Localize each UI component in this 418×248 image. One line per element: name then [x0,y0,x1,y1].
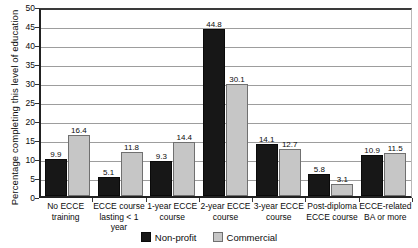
bar-group: 9.314.4 [150,10,195,196]
x-axis-label-line: ECCE-related [359,201,412,212]
bar-commercial: 11.5 [384,153,406,196]
legend-swatch-nonprofit [141,232,151,242]
x-axis-tick-mark [146,198,147,202]
y-axis-tick-mark [35,198,39,199]
bar-nonprofit: 9.9 [45,159,67,196]
bar-group: 9.916.4 [45,10,90,196]
x-axis-tick-mark [252,198,253,202]
legend-label: Non-profit [155,232,197,243]
y-axis-ticks: 05101520253035404550 [0,0,39,206]
x-axis-label: Post-diplomaECCE course [305,201,358,222]
bar-nonprofit: 5.1 [98,177,120,196]
y-axis-tick-label: 15 [26,137,35,146]
bars-layer: 9.916.45.111.89.314.444.830.114.112.75.8… [41,10,410,196]
x-axis-labels: No ECCEtrainingECCE courselasting < 1 ye… [39,201,412,225]
x-axis-label: 2-year ECCEcourse [199,201,252,222]
x-axis-label-line: BA or more [359,212,412,223]
bar-commercial: 11.8 [121,152,143,196]
x-axis-label-line: course [146,212,199,223]
bar-group: 5.83.1 [308,10,353,196]
bar-chart: Percentage completing this level of educ… [0,0,418,248]
bar-nonprofit: 10.9 [361,155,383,196]
bar-value-label: 10.9 [364,146,380,155]
bar-value-label: 11.8 [124,143,139,152]
x-axis-label-line: No ECCE [39,201,92,212]
bar-nonprofit: 5.8 [308,174,330,196]
x-axis-label-line: training [39,212,92,223]
legend-swatch-commercial [213,232,223,242]
y-axis-tick-label: 30 [26,80,35,89]
bar-value-label: 12.7 [282,140,298,149]
bar-value-label: 5.1 [103,168,114,177]
y-axis-tick-label: 45 [26,23,35,32]
x-axis-label-line: ECCE course [92,201,145,212]
x-axis-label: 1-year ECCEcourse [146,201,199,222]
x-axis-label-line: ECCE course [305,212,358,223]
bar-nonprofit: 44.8 [203,29,225,196]
x-axis-label-line: 3-year ECCE [252,201,305,212]
bar-value-label: 14.4 [176,133,192,142]
x-axis-tick-mark [359,198,360,202]
bar-value-label: 11.5 [388,144,403,153]
x-axis-tick-mark [92,198,93,202]
x-axis-label-line: course [252,212,305,223]
bar-commercial: 30.1 [226,84,248,196]
y-axis-tick-label: 40 [26,42,35,51]
legend-item[interactable]: Non-profit [141,232,197,243]
y-axis-tick-label: 25 [26,99,35,108]
y-axis-tick-label: 35 [26,61,35,70]
bar-value-label: 9.3 [156,152,167,161]
x-axis-tick-mark [412,198,413,202]
x-axis-label-line: 2-year ECCE [199,201,252,212]
bar-group: 44.830.1 [203,10,248,196]
bar-commercial: 14.4 [173,142,195,196]
bar-value-label: 44.8 [206,20,222,29]
y-axis-tick-label: 20 [26,118,35,127]
bar-commercial: 16.4 [68,135,90,196]
y-axis-tick-label: 10 [26,156,35,165]
bar-nonprofit: 9.3 [150,161,172,196]
bar-value-label: 5.8 [314,165,325,174]
bar-value-label: 16.4 [71,126,87,135]
x-axis-label-line: Post-diploma [305,201,358,212]
x-axis-label-line: 1-year ECCE [146,201,199,212]
bar-commercial: 3.1 [331,184,353,196]
x-axis-label-line: course [199,212,252,223]
x-axis-tick-mark [199,198,200,202]
bar-value-label: 30.1 [229,75,245,84]
bar-commercial: 12.7 [279,149,301,196]
bar-nonprofit: 14.1 [256,144,278,196]
bar-value-label: 14.1 [259,135,275,144]
bar-group: 14.112.7 [256,10,301,196]
bar-group: 10.911.5 [361,10,406,196]
legend-item[interactable]: Commercial [213,232,278,243]
bar-group: 5.111.8 [98,10,143,196]
legend-label: Commercial [227,232,278,243]
x-axis-label: 3-year ECCEcourse [252,201,305,222]
bar-value-label: 9.9 [50,150,61,159]
y-axis-tick-label: 50 [26,4,35,13]
x-axis-label: No ECCEtraining [39,201,92,222]
x-axis-label: ECCE-relatedBA or more [359,201,412,222]
bar-value-label: 3.1 [337,175,348,184]
x-axis-tick-mark [305,198,306,202]
chart-legend: Non-profitCommercial [0,228,418,246]
